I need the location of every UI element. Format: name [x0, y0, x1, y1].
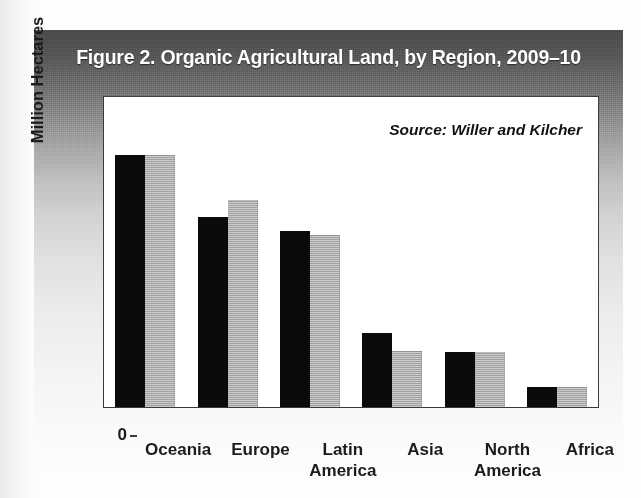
x-axis-category-line: Asia: [384, 439, 466, 460]
bar[interactable]: [392, 351, 422, 407]
bar[interactable]: [145, 155, 175, 407]
figure-panel: Figure 2. Organic Agricultural Land, by …: [34, 30, 623, 473]
x-axis-category-label: LatinAmerica: [302, 439, 384, 481]
x-axis-category-label: Oceania: [137, 439, 219, 460]
bars-container: [104, 97, 598, 407]
bar[interactable]: [115, 155, 145, 407]
bar-group: [445, 97, 505, 407]
page-background: Figure 2. Organic Agricultural Land, by …: [0, 0, 641, 498]
bar-group: [115, 97, 175, 407]
x-axis-category-label: NorthAmerica: [466, 439, 548, 481]
bar[interactable]: [198, 217, 228, 407]
y-axis-tick-label: 0: [118, 425, 127, 445]
x-axis-category-line: Europe: [219, 439, 301, 460]
bar[interactable]: [228, 200, 258, 407]
x-axis-categories: OceaniaEuropeLatinAmericaAsiaNorthAmeric…: [137, 439, 631, 498]
x-axis-category-line: Oceania: [137, 439, 219, 460]
bar[interactable]: [475, 352, 505, 407]
x-axis-category-line: North: [466, 439, 548, 460]
x-axis-category-line: America: [302, 460, 384, 481]
bar[interactable]: [280, 231, 310, 407]
bar-group: [280, 97, 340, 407]
y-axis-tick-mark: [130, 435, 137, 437]
bar[interactable]: [362, 333, 392, 407]
bar[interactable]: [557, 387, 587, 407]
x-axis-category-label: Africa: [549, 439, 631, 460]
bar-group: [198, 97, 258, 407]
source-note: Source: Willer and Kilcher: [389, 121, 582, 139]
bar-group: [362, 97, 422, 407]
plot-area: Source: Willer and Kilcher: [103, 96, 599, 408]
bar[interactable]: [310, 235, 340, 407]
x-axis-category-line: America: [466, 460, 548, 481]
figure-title: Figure 2. Organic Agricultural Land, by …: [34, 46, 623, 69]
x-axis-category-line: Africa: [549, 439, 631, 460]
bar-group: [527, 97, 587, 407]
bar[interactable]: [527, 387, 557, 407]
x-axis-category-line: Latin: [302, 439, 384, 460]
y-axis-label: Million Hectares: [28, 0, 47, 180]
bar[interactable]: [445, 352, 475, 407]
x-axis-category-label: Europe: [219, 439, 301, 460]
x-axis-category-label: Asia: [384, 439, 466, 460]
